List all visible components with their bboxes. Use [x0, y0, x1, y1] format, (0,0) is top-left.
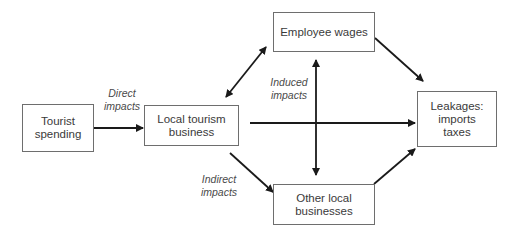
node-tourist-line-2: spending [35, 128, 82, 141]
label-induced-impacts: Induced impacts [266, 76, 312, 102]
node-leakages-line-1: Leakages: [430, 100, 483, 113]
label-direct-line-1: Direct [98, 87, 146, 100]
label-indirect-impacts: Indirect impacts [195, 173, 243, 199]
node-other-line-1: Other local [295, 192, 353, 205]
node-wages-line-1: Employee wages [280, 26, 368, 39]
label-induced-line-1: Induced [266, 76, 312, 89]
node-leakages-line-2: imports [430, 113, 483, 126]
node-leakages: Leakages: imports taxes [417, 91, 497, 147]
label-induced-line-2: impacts [266, 89, 312, 102]
label-indirect-line-1: Indirect [195, 173, 243, 186]
node-tourist-spending: Tourist spending [22, 104, 94, 152]
node-local-line-2: business [157, 126, 225, 139]
label-direct-line-2: impacts [98, 100, 146, 113]
node-other-local-businesses: Other local businesses [273, 184, 375, 225]
node-local-tourism-business: Local tourism business [144, 105, 239, 146]
node-local-line-1: Local tourism [157, 113, 225, 126]
label-direct-impacts: Direct impacts [98, 87, 146, 113]
node-leakages-line-3: taxes [430, 126, 483, 139]
arrow-local-wages [226, 47, 266, 97]
label-indirect-line-2: impacts [195, 186, 243, 199]
node-other-line-2: businesses [295, 205, 353, 218]
node-employee-wages: Employee wages [273, 12, 375, 52]
node-tourist-line-1: Tourist [35, 115, 82, 128]
arrow-wages-leakages [375, 38, 423, 81]
arrow-other-leakages [374, 149, 415, 184]
